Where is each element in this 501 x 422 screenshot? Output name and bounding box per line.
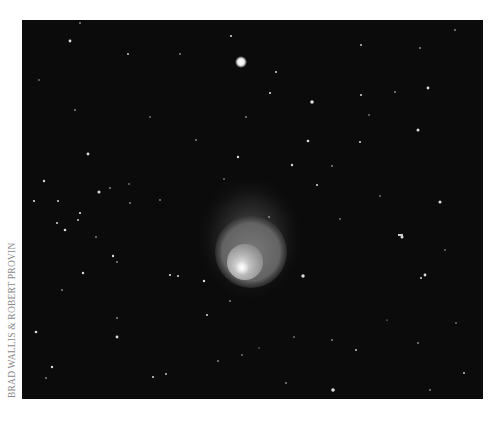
comet: [196, 174, 304, 302]
comet-nucleus: [235, 261, 249, 275]
photo-credit: Brad Wallis & Robert Provin: [7, 243, 17, 398]
diagonal-marker: [398, 234, 403, 236]
bright-star: [235, 56, 247, 68]
star-field: [22, 20, 483, 399]
comet-photograph: [22, 20, 483, 399]
